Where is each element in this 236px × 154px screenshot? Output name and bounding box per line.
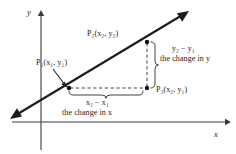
label-p2: P₂(x₂, y₂) bbox=[87, 29, 118, 38]
label-p3: P₃(x₂, y₁) bbox=[156, 85, 187, 94]
p1-pointer-arrow bbox=[53, 69, 68, 88]
point-p2 bbox=[145, 40, 149, 44]
x-axis-label: x bbox=[214, 130, 218, 140]
points-group bbox=[67, 40, 149, 90]
label-delta-x-expression: x₂ − x₁ bbox=[86, 98, 109, 107]
label-delta-y-expression: y₂ − y₁ bbox=[172, 44, 195, 53]
p1-pointer-shaft bbox=[53, 69, 65, 85]
dashed-legs-group bbox=[70, 43, 147, 88]
point-p1 bbox=[67, 86, 71, 90]
line-arrowhead-lower-left bbox=[10, 108, 22, 119]
x-axis-arrowhead bbox=[225, 119, 231, 125]
label-p1: P₁(x₁, y₁) bbox=[36, 58, 67, 67]
brace-vertical bbox=[151, 42, 158, 88]
slope-diagram bbox=[0, 0, 236, 154]
y-axis-label: y bbox=[27, 8, 31, 18]
axes-group bbox=[12, 10, 231, 150]
point-p3 bbox=[145, 86, 149, 90]
label-delta-y-caption: the change in y bbox=[160, 54, 210, 63]
y-axis-arrowhead bbox=[38, 10, 44, 16]
label-delta-x-caption: the change in x bbox=[62, 108, 112, 117]
